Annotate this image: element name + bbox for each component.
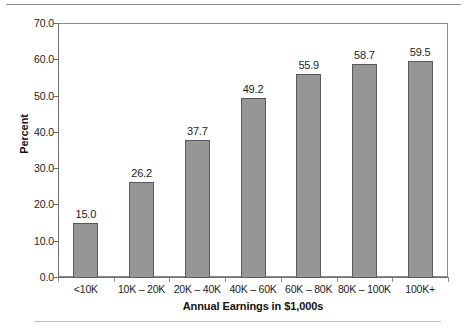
bar — [241, 98, 266, 278]
y-axis-tick-label: 20.0 — [8, 199, 54, 209]
x-axis-tick-mark — [392, 278, 393, 282]
x-axis-tick-mark — [448, 278, 449, 282]
x-axis-tick-mark — [225, 278, 226, 282]
y-axis-line — [58, 23, 59, 278]
y-axis-tick-mark — [53, 241, 58, 242]
scan-artifact-line-bottom — [34, 321, 441, 322]
x-axis-tick-mark — [58, 278, 59, 282]
bar — [73, 223, 98, 278]
bar-value-label: 59.5 — [390, 47, 450, 58]
bar — [408, 61, 433, 278]
y-axis-tick-label: 60.0 — [8, 54, 54, 64]
bar-value-label: 26.2 — [112, 168, 172, 179]
x-axis-tick-mark — [281, 278, 282, 282]
y-axis-tick-label: 0.0 — [8, 272, 54, 282]
bar-chart-figure: 0.010.020.030.040.050.060.070.0 15.026.2… — [0, 0, 467, 328]
bar-value-label: 37.7 — [167, 126, 227, 137]
y-axis-tick-mark — [53, 23, 58, 24]
y-axis-tick-label: 40.0 — [8, 127, 54, 137]
y-axis-tick-mark — [53, 96, 58, 97]
bar — [129, 182, 154, 278]
y-axis-tick-mark — [53, 59, 58, 60]
y-axis-tick-label: 30.0 — [8, 163, 54, 173]
x-axis-category-label: 100K+ — [384, 283, 456, 295]
bar-value-label: 55.9 — [279, 60, 339, 71]
bar-value-label: 58.7 — [334, 50, 394, 61]
y-axis-tick-mark — [53, 204, 58, 205]
y-axis-tick-mark — [53, 132, 58, 133]
bar-value-label: 49.2 — [223, 84, 283, 95]
y-axis-title: Percent — [18, 104, 30, 164]
y-axis-tick-mark — [53, 168, 58, 169]
x-axis-tick-mark — [114, 278, 115, 282]
bar-value-label: 15.0 — [56, 209, 116, 220]
bar — [296, 74, 321, 278]
y-axis-tick-label: 10.0 — [8, 236, 54, 246]
y-axis-tick-label: 50.0 — [8, 91, 54, 101]
x-axis-tick-mark — [337, 278, 338, 282]
x-axis-tick-mark — [169, 278, 170, 282]
x-axis-title: Annual Earnings in $1,000s — [58, 300, 448, 312]
y-axis-tick-label: 70.0 — [8, 18, 54, 28]
bar — [352, 64, 377, 278]
bar — [185, 140, 210, 278]
scan-artifact-line-top — [6, 4, 461, 5]
